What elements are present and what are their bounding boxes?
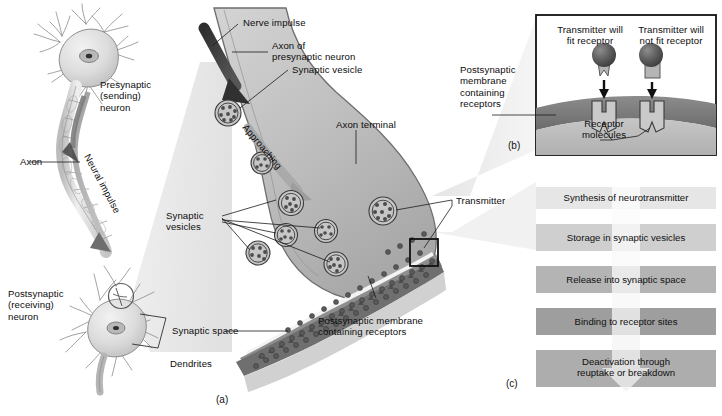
label-axon-of-presynaptic-neuron: Axon of presynaptic neuron [272, 40, 355, 63]
label-postsynaptic-membrane-receptors: Postsynaptic membrane containing recepto… [460, 64, 516, 110]
flow-step-2: Storage in synaptic vesicles [536, 232, 716, 243]
figure-root: Presynaptic (sending) neuron Axon Neural… [0, 0, 722, 416]
label-synaptic-vesicles: Synaptic vesicles [166, 210, 204, 233]
flow-step-1: Synthesis of neurotransmitter [536, 192, 716, 203]
label-presynaptic-neuron: Presynaptic (sending) neuron [100, 79, 151, 113]
label-axon-terminal: Axon terminal [336, 119, 396, 130]
label-synaptic-space: Synaptic space [172, 325, 238, 336]
label-transmitter: Transmitter [456, 195, 505, 206]
flow-step-5: Deactivation through reuptake or breakdo… [536, 356, 716, 379]
label-receptor-molecules: Receptor molecules [566, 118, 642, 141]
flow-step-4: Binding to receptor sites [536, 316, 716, 327]
label-transmitter-will-fit: Transmitter will fit receptor [544, 24, 636, 47]
panel-letter-a: (a) [216, 394, 228, 405]
flow-step-3: Release into synaptic space [536, 274, 716, 285]
panel-letter-c: (c) [506, 378, 518, 389]
panel-letter-b: (b) [508, 140, 520, 151]
label-transmitter-will-not-fit: Transmitter will not fit receptor [624, 24, 718, 47]
label-axon: Axon [20, 156, 42, 167]
label-postsynaptic-membrane: Postsynaptic membrane containing recepto… [318, 315, 423, 338]
label-nerve-impulse: Nerve impulse [243, 17, 306, 28]
label-dendrites: Dendrites [170, 358, 212, 369]
label-postsynaptic-neuron: Postsynaptic (receiving) neuron [8, 288, 64, 322]
label-synaptic-vesicle: Synaptic vesicle [292, 64, 362, 75]
